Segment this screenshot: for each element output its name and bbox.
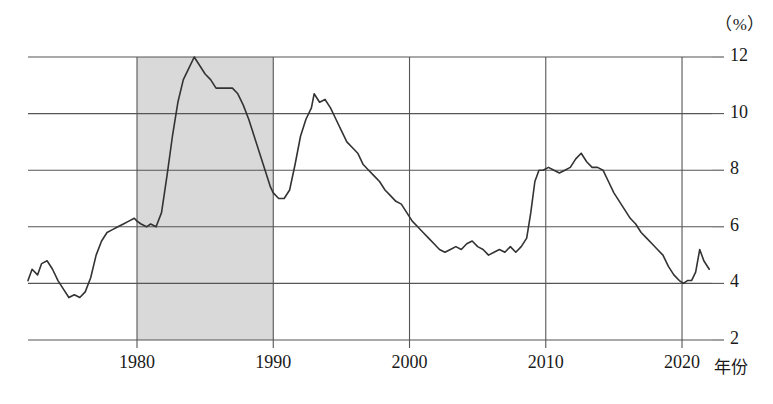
chart-plot-area bbox=[0, 0, 773, 404]
y-tick-label: 6 bbox=[730, 215, 739, 236]
data-line-series-0 bbox=[28, 57, 709, 298]
x-tick-label: 1990 bbox=[233, 352, 313, 373]
x-tick-label: 2010 bbox=[506, 352, 586, 373]
y-tick-label: 8 bbox=[730, 158, 739, 179]
shaded-region bbox=[137, 57, 273, 340]
y-tick-label: 10 bbox=[730, 102, 748, 123]
x-axis-title: 年份 bbox=[714, 353, 748, 378]
x-tick-label: 1980 bbox=[97, 352, 177, 373]
y-tick-label: 2 bbox=[730, 328, 739, 349]
unemployment-rate-chart: （%） 12108642 19801990200020102020 年份 bbox=[0, 0, 773, 404]
y-axis-unit-label: （%） bbox=[715, 10, 765, 35]
y-tick-label: 12 bbox=[730, 45, 748, 66]
x-tick-label: 2020 bbox=[642, 352, 722, 373]
y-tick-label: 4 bbox=[730, 271, 739, 292]
x-tick-label: 2000 bbox=[370, 352, 450, 373]
